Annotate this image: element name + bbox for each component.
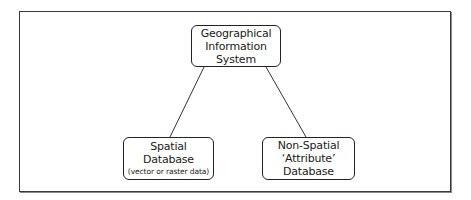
node-label-line: Database [143, 153, 194, 166]
node-label-line: System [216, 53, 256, 66]
edge-gis-to-nonspatial [266, 67, 306, 137]
node-label-line: Geographical [201, 27, 272, 40]
node-non-spatial-attribute-database: Non-Spatial ‘Attribute’ Database [262, 137, 355, 180]
node-label-line: ‘Attribute’ [282, 152, 335, 165]
node-label-line: Non-Spatial [278, 139, 340, 152]
node-label-line: Information [205, 40, 266, 53]
node-geographical-information-system: Geographical Information System [191, 25, 281, 67]
node-label-line: Database [283, 165, 334, 178]
node-spatial-database: Spatial Database (vector or raster data) [123, 137, 214, 180]
edge-gis-to-spatial [170, 67, 204, 137]
node-note: (vector or raster data) [128, 166, 209, 177]
node-label-line: Spatial [150, 140, 186, 153]
